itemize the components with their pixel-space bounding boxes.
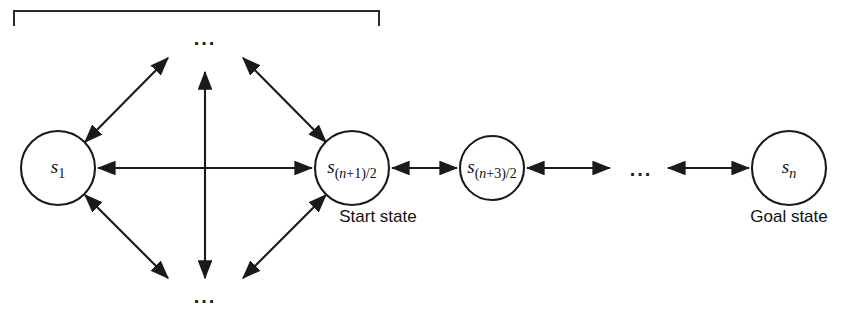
node-s1[interactable]: s1 [21,131,95,205]
goal-state-caption: Goal state [750,207,828,226]
start-state-caption: Start state [339,207,416,226]
edge-center-upper-left-diagonal [243,58,326,142]
node-s-n[interactable]: sn [752,131,826,205]
edge-center-lower-left-diagonal [243,195,326,278]
diagram-canvas: s1 s(n+1)/2 s(n+3)/2 sn Start state Goa [0,0,848,313]
ellipsis-top: ... [194,27,217,49]
edge-s1-upper-right-diagonal [85,58,168,142]
node-s-center[interactable]: s(n+1)/2 [315,131,389,205]
state-transition-diagram: s1 s(n+1)/2 s(n+3)/2 sn Start state Goa [0,0,848,313]
ellipsis-bottom: ... [194,285,217,307]
node-s-next[interactable]: s(n+3)/2 [460,136,524,200]
edge-s1-lower-right-diagonal [85,195,168,278]
top-grouping-bracket [14,11,379,26]
ellipsis-right: ... [630,158,653,180]
